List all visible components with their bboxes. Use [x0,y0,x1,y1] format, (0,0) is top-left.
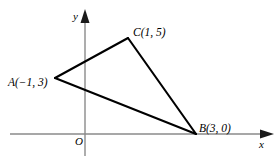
x-axis-label: x [259,139,264,150]
origin-label: O [75,136,83,147]
vertex-label-b: B(3, 0) [199,123,231,135]
edge-AC [55,38,128,78]
edge-BA [55,78,196,134]
y-axis-arrowhead [81,9,90,23]
vertex-label-a: A(−1, 3) [8,77,48,89]
vertex-label-c: C(1, 5) [133,27,166,39]
coordinate-geometry-figure: C(1, 5) A(−1, 3) B(3, 0) y x O [0,0,277,163]
y-axis-label: y [73,11,78,22]
